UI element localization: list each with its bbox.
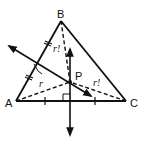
label-b: B xyxy=(57,8,64,20)
point-p xyxy=(68,80,72,84)
label-p: P xyxy=(75,70,82,82)
label-a: A xyxy=(5,97,13,109)
label-pc: r! xyxy=(93,77,100,88)
right-angle-ac xyxy=(63,94,70,101)
label-pa: r xyxy=(39,78,43,89)
triangle-diagram: B A C P r! r r! xyxy=(0,0,149,148)
label-pb: r! xyxy=(53,43,60,54)
label-c: C xyxy=(130,97,138,109)
